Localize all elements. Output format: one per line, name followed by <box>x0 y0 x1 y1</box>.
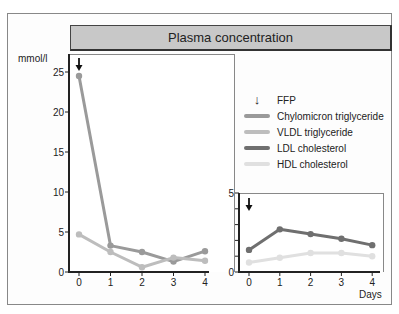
legend-label: Chylomicron triglyceride <box>277 111 384 122</box>
line-swatch-icon <box>244 162 270 166</box>
line-swatch-icon <box>244 146 270 150</box>
down-arrow-icon: ↓ <box>244 93 270 107</box>
legend-label: LDL cholesterol <box>277 143 346 154</box>
legend-item-ffp: ↓ FFP <box>244 92 384 108</box>
svg-text:3: 3 <box>171 277 177 288</box>
legend: ↓ FFP Chylomicron triglyceride VLDL trig… <box>244 92 384 172</box>
svg-text:1: 1 <box>277 277 283 288</box>
svg-text:15: 15 <box>53 147 65 158</box>
svg-text:2: 2 <box>308 277 314 288</box>
legend-item-vldl: VLDL triglyceride <box>244 124 384 140</box>
svg-text:0: 0 <box>246 277 252 288</box>
svg-text:5: 5 <box>58 227 64 238</box>
svg-text:25: 25 <box>53 67 65 78</box>
x-axis-label: Days <box>359 289 382 300</box>
line-swatch-icon <box>244 130 270 134</box>
svg-text:4: 4 <box>202 277 208 288</box>
legend-label: VLDL triglyceride <box>277 127 353 138</box>
legend-label: FFP <box>277 95 296 106</box>
legend-item-chylomicron: Chylomicron triglyceride <box>244 108 384 124</box>
legend-label: HDL cholesterol <box>277 159 348 170</box>
line-swatch-icon <box>244 114 270 118</box>
legend-item-ldl: LDL cholesterol <box>244 140 384 156</box>
svg-text:3: 3 <box>339 277 345 288</box>
svg-text:20: 20 <box>53 107 65 118</box>
svg-text:0: 0 <box>228 267 234 278</box>
svg-text:2: 2 <box>139 277 145 288</box>
svg-text:1: 1 <box>108 277 114 288</box>
svg-text:0: 0 <box>58 267 64 278</box>
svg-text:4: 4 <box>369 277 375 288</box>
svg-text:0: 0 <box>76 277 82 288</box>
legend-item-hdl: HDL cholesterol <box>244 156 384 172</box>
svg-text:5: 5 <box>228 188 234 199</box>
svg-text:10: 10 <box>53 187 65 198</box>
